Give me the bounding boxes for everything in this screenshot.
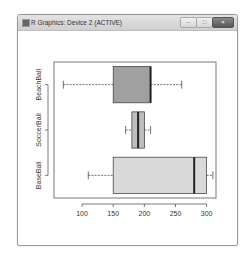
x-tick-label: 150: [107, 210, 119, 217]
x-axis: 100150200250300: [76, 204, 212, 217]
y-tick-label: BeachBall: [35, 68, 42, 100]
box-beachball: [63, 67, 181, 103]
boxplot-chart: 100150200250300 BaseBallSoccerBallBeachB…: [0, 0, 250, 261]
box-baseball: [88, 157, 213, 193]
x-tick-label: 200: [139, 210, 151, 217]
x-tick-label: 250: [170, 210, 182, 217]
y-tick-label: BaseBall: [35, 161, 42, 189]
x-tick-label: 100: [76, 210, 88, 217]
y-tick-label: SoccerBall: [35, 113, 42, 147]
y-axis: BaseBallSoccerBallBeachBall: [35, 68, 48, 189]
x-tick-label: 300: [201, 210, 213, 217]
boxes: [63, 67, 213, 194]
box-soccerball: [126, 112, 151, 148]
box-iqr: [113, 67, 150, 103]
box-iqr: [113, 157, 206, 193]
